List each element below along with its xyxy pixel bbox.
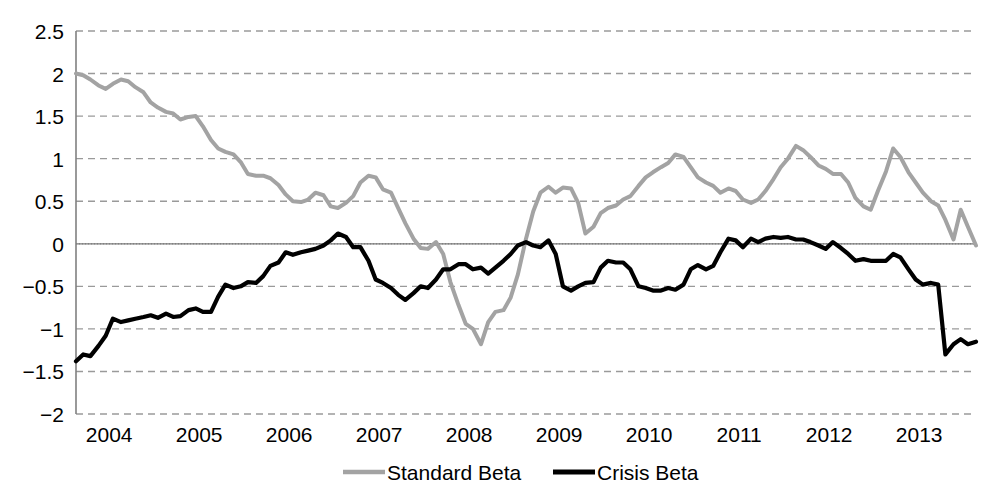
x-tick-label: 2007 (356, 423, 403, 446)
chart-legend: Standard BetaCrisis Beta (343, 461, 699, 484)
y-tick-label: −1.5 (23, 360, 64, 383)
y-tick-label: −2 (40, 403, 64, 426)
x-tick-label: 2009 (536, 423, 583, 446)
y-tick-label: −0.5 (23, 275, 64, 298)
y-tick-label: 2.5 (35, 20, 64, 43)
legend-label-crisis-beta: Crisis Beta (597, 461, 699, 484)
y-tick-label: 0 (52, 233, 64, 256)
x-tick-label: 2006 (266, 423, 313, 446)
x-tick-label: 2010 (626, 423, 673, 446)
x-tick-label: 2012 (806, 423, 853, 446)
x-tick-label: 2004 (86, 423, 133, 446)
x-tick-label: 2011 (717, 423, 762, 446)
x-tick-label: 2005 (176, 423, 223, 446)
series-standard-beta (76, 74, 976, 345)
grid-lines (76, 31, 976, 414)
y-tick-label: 0.5 (35, 190, 64, 213)
y-tick-label: 1 (52, 148, 64, 171)
legend-label-standard-beta: Standard Beta (387, 461, 522, 484)
y-tick-label: −1 (40, 318, 64, 341)
x-tick-labels: 2004200520062007200820092010201120122013 (86, 423, 943, 446)
chart-canvas: 2.521.510.50−0.5−1−1.5−2 200420052006200… (0, 0, 997, 503)
x-tick-label: 2013 (896, 423, 943, 446)
y-tick-labels: 2.521.510.50−0.5−1−1.5−2 (23, 20, 64, 426)
y-tick-label: 1.5 (35, 105, 64, 128)
x-tick-label: 2008 (446, 423, 493, 446)
line-chart: 2.521.510.50−0.5−1−1.5−2 200420052006200… (0, 0, 997, 503)
y-tick-label: 2 (52, 63, 64, 86)
series-crisis-beta (76, 234, 976, 362)
